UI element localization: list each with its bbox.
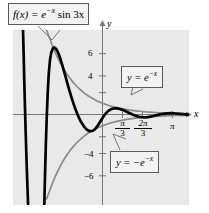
y-tick-label-neg6: −6 <box>84 171 94 181</box>
curve-upper-envelope <box>47 30 189 114</box>
callout-upper-exponent: −x <box>149 69 157 78</box>
callout-function-tail: sin 3x <box>55 8 84 20</box>
x-tick-2pi3-numerator: 2π <box>134 119 152 128</box>
y-tick-label-neg4: −4 <box>84 149 94 159</box>
y-tick-label-6: 6 <box>88 48 93 58</box>
x-axis-label: x <box>194 108 198 119</box>
x-tick-2pi3-denominator: 3 <box>134 129 152 138</box>
x-tick-label-2pi-over-3: 2π 3 <box>134 119 152 139</box>
callout-lower-exponent: −x <box>145 154 153 163</box>
y-tick-label-4: 4 <box>88 71 93 81</box>
callout-lower-envelope-label: y = −e−x <box>110 151 159 173</box>
figure-graph-damped-sine: f(x) = e−x sin 3x y = e−x y = −e−x y x 6… <box>0 0 209 213</box>
callout-function-label: f(x) = e−x sin 3x <box>8 3 89 25</box>
callout-upper-envelope-label: y = e−x <box>121 66 163 88</box>
callout-function-name: f(x) = <box>13 8 41 20</box>
callout-function-exponent: −x <box>46 6 55 15</box>
callout-upper-lhs: y = <box>127 72 144 83</box>
x-tick-pi3-denominator: 3 <box>115 129 130 138</box>
plot-canvas <box>0 0 209 213</box>
x-tick-label-pi: π <box>170 121 175 131</box>
callout-lower-lhs: y = − <box>116 157 140 168</box>
y-axis-label: y <box>107 18 111 29</box>
x-tick-pi3-numerator: π <box>115 119 130 128</box>
curve-damped-sine <box>23 30 188 205</box>
x-tick-label-pi-over-3: π 3 <box>115 119 130 139</box>
